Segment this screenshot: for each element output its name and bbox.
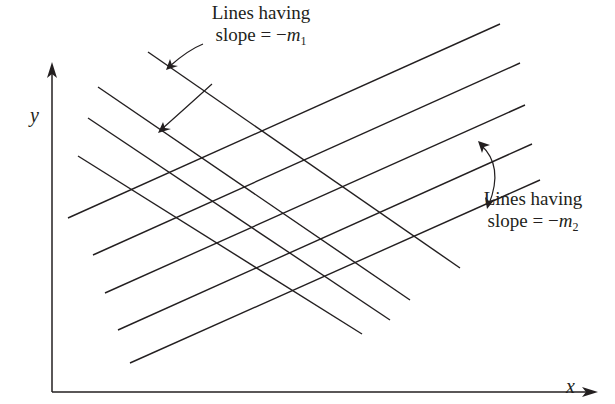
slope-prefix: slope = − xyxy=(488,210,559,231)
annotation-slope-m2: Lines having slope = −m2 xyxy=(458,188,608,238)
family-slope-m1 xyxy=(78,52,460,334)
line-slope-m2-1 xyxy=(68,24,500,218)
y-axis-label: y xyxy=(30,104,39,127)
line-slope-m2-2 xyxy=(93,63,520,255)
pointer-arrow-icon xyxy=(163,84,212,128)
slope-subscript: 1 xyxy=(300,34,306,48)
annotation-line1: Lines having xyxy=(458,188,608,210)
arc-arrowhead-top-icon xyxy=(478,141,490,153)
slope-variable: m xyxy=(559,210,573,231)
slope-variable: m xyxy=(287,24,301,45)
annotation-line2: slope = −m2 xyxy=(458,210,608,238)
slope-prefix: slope = − xyxy=(216,24,287,45)
line-slope-m1-4 xyxy=(78,156,362,334)
slope-subscript: 2 xyxy=(572,220,578,234)
line-slope-m1-3 xyxy=(88,118,390,320)
annotation-line2: slope = −m1 xyxy=(186,24,336,52)
diagram-canvas: Lines having slope = −m1 Lines having sl… xyxy=(0,0,615,404)
annotation-line1: Lines having xyxy=(186,2,336,24)
line-slope-m1-2 xyxy=(98,87,410,300)
top-label-pointers xyxy=(158,44,212,133)
pointer-arrowhead-icon xyxy=(158,122,171,133)
x-axis-label: x xyxy=(566,375,575,398)
annotation-slope-m1: Lines having slope = −m1 xyxy=(186,2,336,52)
